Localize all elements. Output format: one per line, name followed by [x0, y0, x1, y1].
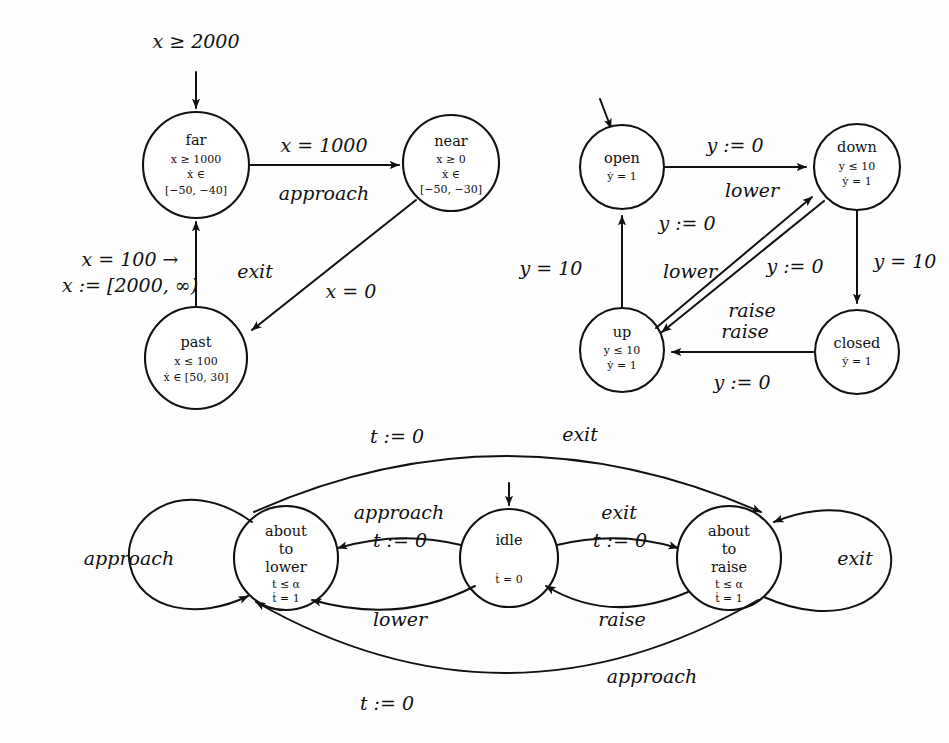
edge-near-to-past [252, 200, 416, 330]
node-about-to-lower-label-2: to [279, 541, 294, 557]
edge-atl-self-loop-event: approach [84, 547, 174, 569]
node-up-invariant-2: ẏ = 1 [606, 359, 636, 372]
node-past[interactable]: past x ≤ 100 ẋ ∈ [50, 30] [145, 307, 247, 409]
controller-automaton: about to lower t ≤ α ṫ = 1 idle ṫ = 0 ab… [84, 423, 891, 714]
node-idle-invariant-1: ṫ = 0 [495, 572, 523, 586]
node-down[interactable]: down y ≤ 10 ẏ = 1 [814, 124, 900, 210]
edge-up-down-guard: y := 0 [657, 212, 715, 234]
node-closed[interactable]: closed ẏ = 1 [815, 310, 899, 394]
node-past-invariant-2: ẋ ∈ [50, 30] [164, 371, 229, 384]
node-about-to-lower[interactable]: about to lower t ≤ α ṫ = 1 [234, 506, 338, 610]
edge-up-open-guard: y = 10 [519, 257, 583, 279]
node-far-invariant-3: [−50, −40] [165, 184, 227, 197]
node-idle[interactable]: idle ṫ = 0 [460, 509, 558, 607]
gate-automaton: open ẏ = 1 down y ≤ 10 ẏ = 1 up y ≤ 10 ẏ… [519, 99, 937, 394]
node-closed-label: closed [834, 335, 881, 351]
node-down-label: down [837, 139, 877, 155]
edge-bottom-event: approach [607, 665, 697, 687]
node-near-invariant-2: ẋ ∈ [442, 168, 460, 181]
edge-bottom-guard: t := 0 [360, 692, 414, 714]
node-far-invariant-2: ẋ ∈ [187, 168, 205, 181]
edge-atr-to-atl-bottom [256, 600, 758, 673]
node-closed-invariant-1: ẏ = 1 [841, 355, 871, 368]
edge-atl-to-idle [312, 586, 475, 610]
edge-atl-idle-event: lower [373, 608, 429, 630]
edge-down-up-guard: y := 0 [765, 255, 823, 277]
edge-atr-self-loop-event: exit [837, 547, 873, 569]
node-open-invariant-1: ẏ = 1 [606, 170, 636, 183]
node-about-to-raise-invariant-2: ṫ = 1 [715, 591, 743, 605]
node-about-to-lower-invariant-1: t ≤ α [272, 578, 301, 591]
edge-far-near-event: approach [279, 182, 369, 204]
node-about-to-lower-label-1: about [265, 523, 307, 539]
node-far-label: far [186, 132, 207, 148]
node-past-label: past [180, 334, 211, 350]
node-near-label: near [434, 133, 468, 149]
node-near[interactable]: near x ≥ 0 ẋ ∈ [−50, −30] [403, 115, 499, 211]
node-up-invariant-1: y ≤ 10 [603, 344, 640, 357]
node-closed-circle[interactable] [815, 310, 899, 394]
edge-idle-atl-event: approach [354, 501, 444, 523]
edge-idle-atl-guard: t := 0 [373, 529, 427, 551]
gate-initial-arrow [600, 99, 611, 128]
node-near-invariant-1: x ≥ 0 [436, 153, 465, 166]
node-far[interactable]: far x ≥ 1000 ẋ ∈ [−50, −40] [143, 112, 249, 218]
edge-open-down-event: lower [725, 179, 781, 201]
node-far-invariant-1: x ≥ 1000 [171, 153, 221, 166]
edge-atl-to-atr-top [254, 456, 761, 512]
edge-top-guard: t := 0 [370, 425, 424, 447]
edge-idle-atr-guard: t := 0 [593, 529, 647, 551]
edge-down-up-event: raise [728, 299, 775, 321]
node-open-label: open [604, 150, 640, 166]
edge-closed-up-event: raise [721, 320, 768, 342]
edge-atr-idle-event: raise [598, 608, 645, 630]
edge-near-past-guard: x = 0 [326, 280, 377, 302]
diagram-canvas: x ≥ 2000 far x ≥ 1000 ẋ ∈ [−50, −40] nea… [0, 0, 949, 743]
node-about-to-lower-label-3: lower [265, 559, 306, 575]
edge-down-closed-guard: y = 10 [873, 250, 937, 272]
edge-idle-atr-event: exit [601, 501, 637, 523]
node-up-label: up [613, 324, 632, 340]
node-open-circle[interactable] [580, 125, 664, 209]
node-about-to-raise[interactable]: about to raise t ≤ α ṫ = 1 [677, 506, 781, 610]
node-up[interactable]: up y ≤ 10 ẏ = 1 [580, 308, 664, 392]
train-initial-label: x ≥ 2000 [152, 30, 239, 52]
node-past-invariant-1: x ≤ 100 [174, 355, 217, 368]
node-near-invariant-3: [−50, −30] [420, 183, 482, 196]
node-about-to-raise-label-1: about [708, 523, 750, 539]
hybrid-automata-figure: x ≥ 2000 far x ≥ 1000 ẋ ∈ [−50, −40] nea… [0, 0, 949, 743]
edge-atr-to-idle [546, 586, 688, 607]
edge-closed-up-guard: y := 0 [712, 371, 770, 393]
node-about-to-raise-invariant-1: t ≤ α [715, 578, 744, 591]
edge-up-down-event: lower [663, 260, 719, 282]
node-about-to-raise-label-3: raise [711, 559, 747, 575]
node-idle-label: idle [495, 532, 522, 548]
node-about-to-lower-invariant-2: ṫ = 1 [272, 591, 300, 605]
edge-far-near-guard: x = 1000 [280, 134, 367, 156]
edge-past-far-guard-line2: x := [2000, ∞) [62, 274, 198, 296]
edge-past-far-event: exit [237, 260, 273, 282]
edge-top-event: exit [562, 423, 598, 445]
node-idle-circle[interactable] [460, 509, 558, 607]
node-about-to-raise-label-2: to [722, 541, 737, 557]
train-automaton: x ≥ 2000 far x ≥ 1000 ẋ ∈ [−50, −40] nea… [62, 30, 499, 409]
node-down-invariant-2: ẏ = 1 [841, 175, 871, 188]
edge-open-down-guard: y := 0 [705, 134, 763, 156]
node-down-invariant-1: y ≤ 10 [838, 160, 875, 173]
edge-past-far-guard-line1: x = 100 → [82, 248, 179, 270]
node-open[interactable]: open ẏ = 1 [580, 125, 664, 209]
